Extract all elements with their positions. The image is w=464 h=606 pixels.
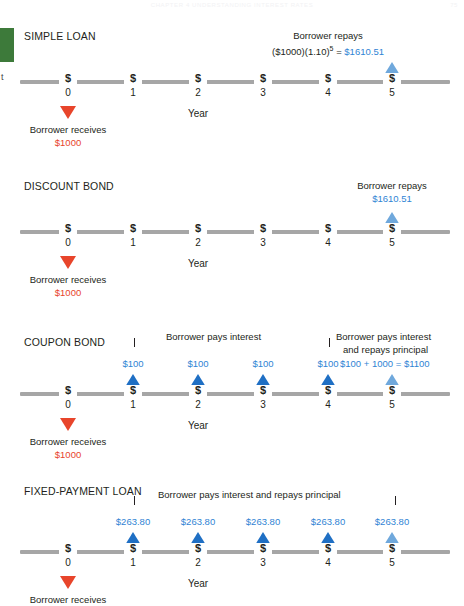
running-head-text: CHAPTER 4 UNDERSTANDING INTEREST RATES [151, 2, 313, 8]
tick-label: 3 [254, 237, 272, 249]
axis-label-year: Year [168, 420, 228, 431]
tick-label: 4 [319, 237, 337, 249]
tick-label: 5 [383, 557, 401, 569]
tick-label: 2 [189, 87, 207, 99]
coupon-bond-bracket-label: Borrower pays interest [162, 331, 265, 342]
fixed-payment-bracket-label: Borrower pays interest and repays princi… [154, 489, 345, 500]
payment-amount-year4: $263.80 [293, 516, 363, 528]
panel-title-discount-bond: DISCOUNT BOND [24, 180, 114, 192]
bracket-left-tick [134, 496, 135, 505]
coupon-bond-bracket: Borrower pays interest [134, 338, 330, 347]
dollar-icon: $ [383, 543, 401, 554]
tick-label: 3 [254, 557, 272, 569]
tick-label: 3 [254, 399, 272, 411]
dollar-icon: $ [189, 73, 207, 84]
bracket-left-tick [134, 338, 135, 347]
bracket-right-tick [395, 496, 396, 505]
tick-label: 0 [59, 557, 77, 569]
inflow-triangle-year0 [60, 256, 76, 269]
simple-loan-receive-amount: $1000 [0, 137, 143, 150]
figure-page: CHAPTER 4 UNDERSTANDING INTEREST RATES 7… [0, 0, 464, 606]
panel-title-fixed-payment-loan: FIXED-PAYMENT LOAN [24, 485, 142, 497]
coupon-bond-receive-amount: $1000 [0, 449, 143, 462]
payment-amount-year2: $263.80 [163, 516, 233, 528]
fixed-payment-receive-line1: Borrower receives [0, 594, 143, 606]
tick-label: 0 [59, 87, 77, 99]
dollar-icon: $ [383, 385, 401, 396]
running-head: CHAPTER 4 UNDERSTANDING INTEREST RATES 7… [0, 2, 464, 8]
dollar-icon: $ [124, 543, 142, 554]
payment-amount-year5: $263.80 [357, 516, 427, 528]
coupon-bond-receive-line1: Borrower receives [0, 436, 143, 449]
panel-title-coupon-bond: COUPON BOND [24, 336, 105, 348]
discount-bond-repay-value: $1610.51 [322, 193, 462, 206]
dollar-icon: $ [319, 73, 337, 84]
discount-bond-receive-amount: $1000 [0, 287, 143, 300]
coupon-amount-year5: $100 + 1000 = $1100 [340, 358, 460, 370]
tick-label: 4 [319, 399, 337, 411]
dollar-icon: $ [319, 543, 337, 554]
tick-label: 0 [59, 237, 77, 249]
panel-discount-bond: DISCOUNT BOND Borrower repays $1610.51 $… [0, 180, 464, 330]
coupon-amount-year2: $100 [163, 358, 233, 370]
tick-label: 5 [383, 87, 401, 99]
inflow-triangle-year0 [60, 106, 76, 119]
tick-label: 5 [383, 237, 401, 249]
tick-label: 0 [59, 399, 77, 411]
bracket-right-tick [329, 338, 330, 347]
panel-coupon-bond: COUPON BOND Borrower pays interest Borro… [0, 330, 464, 490]
axis-label-year: Year [168, 258, 228, 269]
tick-label: 4 [319, 87, 337, 99]
tick-label: 5 [383, 399, 401, 411]
coupon-bond-final-line1: Borrower pays interest [336, 331, 431, 344]
axis-label-year: Year [168, 578, 228, 589]
tick-label: 3 [254, 87, 272, 99]
panel-title-simple-loan: SIMPLE LOAN [24, 30, 96, 42]
inflow-triangle-year0 [60, 576, 76, 589]
coupon-amount-year3: $100 [228, 358, 298, 370]
simple-loan-repay-line1: Borrower repays [263, 30, 393, 43]
tick-label: 4 [319, 557, 337, 569]
simple-loan-repay-formula: ($1000)(1.10)5 = $1610.51 [238, 43, 418, 59]
dollar-icon: $ [254, 385, 272, 396]
dollar-icon: $ [189, 223, 207, 234]
simple-loan-receive-line1: Borrower receives [0, 124, 143, 137]
dollar-icon: $ [124, 223, 142, 234]
panel-simple-loan: SIMPLE LOAN Borrower repays ($1000)(1.10… [0, 30, 464, 180]
dollar-icon: $ [319, 223, 337, 234]
dollar-icon: $ [59, 543, 77, 554]
tick-label: 2 [189, 399, 207, 411]
simple-loan-formula-base: ($1000)(1.10) [272, 46, 330, 57]
dollar-icon: $ [383, 223, 401, 234]
tick-label: 2 [189, 557, 207, 569]
dollar-icon: $ [383, 73, 401, 84]
panel-fixed-payment-loan: FIXED-PAYMENT LOAN Borrower pays interes… [0, 483, 464, 606]
dollar-icon: $ [254, 73, 272, 84]
tick-label: 1 [124, 557, 142, 569]
dollar-icon: $ [254, 543, 272, 554]
dollar-icon: $ [319, 385, 337, 396]
dollar-icon: $ [59, 223, 77, 234]
dollar-icon: $ [254, 223, 272, 234]
tick-label: 1 [124, 87, 142, 99]
coupon-bond-final-line2: and repays principal [343, 344, 428, 357]
page-number: 75 [450, 2, 458, 8]
tick-label: 2 [189, 237, 207, 249]
dollar-icon: $ [189, 385, 207, 396]
inflow-triangle-year0 [60, 418, 76, 431]
simple-loan-repay-value: $1610.51 [344, 46, 384, 57]
discount-bond-receive-line1: Borrower receives [0, 274, 143, 287]
payment-amount-year3: $263.80 [228, 516, 298, 528]
dollar-icon: $ [59, 385, 77, 396]
tick-label: 1 [124, 237, 142, 249]
discount-bond-repay-line1: Borrower repays [322, 180, 462, 193]
axis-label-year: Year [168, 108, 228, 119]
fixed-payment-bracket: Borrower pays interest and repays princi… [134, 496, 396, 505]
dollar-icon: $ [189, 543, 207, 554]
dollar-icon: $ [59, 73, 77, 84]
payment-amount-year1: $263.80 [98, 516, 168, 528]
dollar-icon: $ [124, 73, 142, 84]
coupon-amount-year1: $100 [98, 358, 168, 370]
dollar-icon: $ [124, 385, 142, 396]
simple-loan-formula-equals: = [334, 46, 345, 57]
